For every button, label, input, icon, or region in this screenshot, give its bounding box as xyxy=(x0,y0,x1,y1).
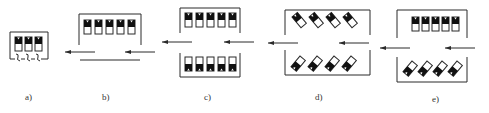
panel-a xyxy=(10,32,48,61)
label-e: e) xyxy=(432,94,439,104)
panel-d xyxy=(268,10,370,75)
diagram-canvas xyxy=(0,0,489,113)
panel-e xyxy=(380,10,475,82)
label-c: c) xyxy=(204,92,211,102)
label-a: a) xyxy=(25,92,32,102)
label-b: b) xyxy=(102,92,110,102)
panel-c xyxy=(162,8,254,77)
label-d: d) xyxy=(315,92,323,102)
panel-b xyxy=(65,14,155,60)
